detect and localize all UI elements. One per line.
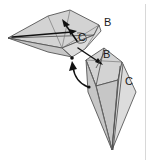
rotation-arrow-shaft [73, 67, 88, 87]
label-lower-b: B [103, 48, 110, 60]
diagram-canvas: B C B C [0, 0, 151, 163]
label-upper-c: C [78, 31, 86, 43]
rotation-arrow-head [69, 61, 77, 71]
label-upper-b: B [104, 16, 111, 28]
label-lower-c: C [125, 75, 133, 87]
curved-rotation-arrow [69, 61, 88, 87]
junction-anchor-dot [70, 56, 74, 60]
lower-folded-paper-unit [86, 48, 136, 150]
origami-diagram-figure: B C B C [0, 0, 151, 163]
